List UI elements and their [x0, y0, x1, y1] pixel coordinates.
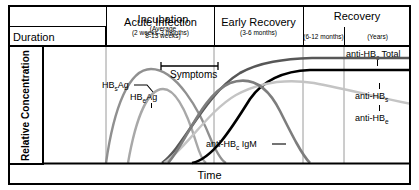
curve-label-anti-hbs: anti-HBs: [355, 91, 388, 103]
anti-hbe-subscript: e: [385, 118, 389, 125]
curve-label-anti-hbc-igm: anti-HBc IgM: [206, 139, 257, 151]
chart-frame: Incubation (Average 8-13 weeks) Acute In…: [8, 5, 411, 185]
header-separator-2: [214, 7, 215, 47]
phase-title-early-recovery: Early Recovery: [221, 17, 296, 29]
curve-label-anti-hbe: anti-HBe: [355, 113, 389, 125]
anti-hbs-prefix: anti-HB: [355, 91, 385, 101]
anti-hbe-prefix: anti-HB: [355, 113, 385, 123]
hbeag-tail: Ag: [146, 92, 157, 102]
hepatitis-b-serology-chart: Incubation (Average 8-13 weeks) Acute In…: [0, 0, 419, 190]
phase-cell-early-recovery: Early Recovery (3-6 months): [214, 7, 303, 47]
header-separator-3: [303, 7, 304, 47]
phase-title-recovery: Recovery: [334, 11, 380, 23]
header-separator-4: [344, 27, 345, 47]
leader-tick-anti-hbs: [379, 83, 380, 89]
phase-title-acute-infection: Acute Infection: [124, 17, 197, 29]
hbeag-prefix: HB: [130, 92, 143, 102]
phase-sub-recovery-right: (Years): [367, 34, 388, 41]
curve-label-hbeag: HBeAg: [130, 92, 157, 104]
curve-label-hbsag: HBsAg: [102, 80, 129, 92]
hbsag-tail: Ag: [118, 80, 129, 90]
y-axis-label-box: Relative Concentration: [10, 47, 44, 165]
anti-hbc-igm-tail: IgM: [239, 139, 257, 149]
y-axis-title: Relative Concentration: [21, 49, 32, 160]
leader-tick-hbeag: [151, 103, 152, 108]
leader-line-anti-hbc-igm: [272, 138, 288, 150]
leader-tick-anti-hbe: [379, 105, 380, 111]
phase-sub-recovery-left: (6-12 months): [303, 34, 343, 41]
phase-cell-acute-infection: Acute Infection (2 weeks-3 months): [107, 7, 214, 47]
phase-header: Incubation (Average 8-13 weeks) Acute In…: [10, 7, 409, 47]
phase-subcell-years: (Years): [344, 27, 411, 47]
phase-sub-acute-infection: (2 weeks-3 months): [132, 30, 189, 37]
phase-subcell-6-12-months: (6-12 months): [303, 27, 344, 47]
anti-hbc-igm-prefix: anti-HB: [206, 139, 236, 149]
duration-label: Duration: [10, 31, 55, 43]
duration-cell: Duration: [10, 26, 106, 47]
hbsag-prefix: HB: [102, 80, 115, 90]
symptoms-label: Symptoms: [170, 69, 217, 80]
header-separator-1: [106, 7, 107, 47]
leader-line-hbsag: [134, 79, 154, 93]
x-axis-label-box: Time: [10, 165, 409, 185]
phase-cell-recovery: Recovery: [303, 7, 411, 27]
x-axis-title: Time: [197, 169, 221, 181]
anti-hbs-subscript: s: [385, 96, 388, 103]
phase-sub-early-recovery: (3-6 months): [240, 30, 277, 37]
